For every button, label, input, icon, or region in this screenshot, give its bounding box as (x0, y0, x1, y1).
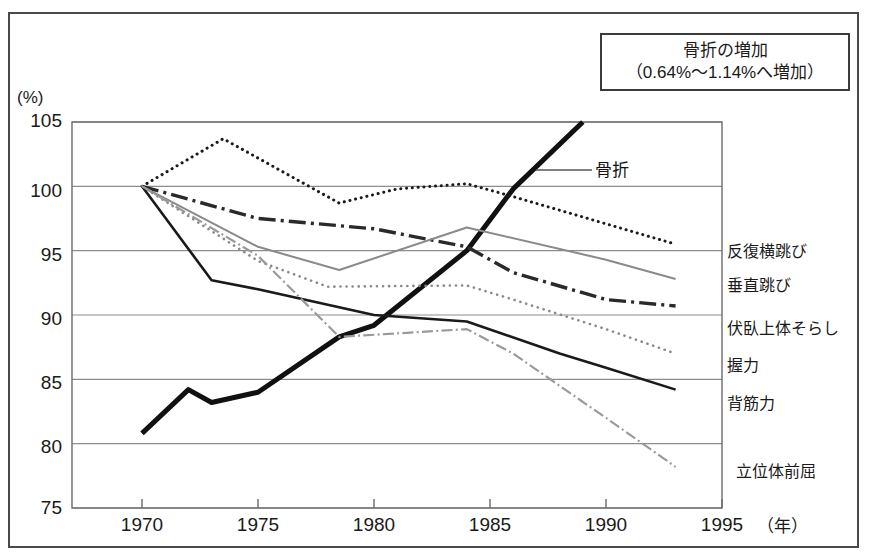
y-tick-label: 90 (16, 308, 62, 330)
series-line (142, 186, 676, 389)
series-line (142, 186, 676, 353)
x-tick-label: 1995 (682, 514, 762, 536)
series-label-suichoku-tobi: 垂直跳び (727, 272, 791, 296)
series-label-akuryoku: 握力 (727, 352, 759, 376)
series-label-hanpuku-yoko-tobi: 反復横跳び (727, 238, 807, 262)
y-tick-label: 105 (16, 110, 62, 132)
callout-line-1: 骨折の増加 (683, 40, 768, 62)
series-label-haikinryoku: 背筋力 (727, 390, 775, 414)
x-axis-unit-label: （年） (757, 512, 808, 537)
x-tick-label: 1985 (450, 514, 530, 536)
series-label-fukuga-jotai-sorashi: 伏臥上体そらし (727, 315, 839, 339)
series-label-fracture: 骨折 (595, 156, 629, 181)
x-tick-marks-group (142, 499, 722, 508)
x-tick-label: 1990 (566, 514, 646, 536)
series-label-ritsui-tai-zenkutsu: 立位体前屈 (736, 458, 816, 482)
y-axis-unit-label: (%) (17, 88, 43, 108)
x-tick-label: 1980 (334, 514, 414, 536)
y-tick-label: 95 (16, 244, 62, 266)
y-tick-label: 75 (16, 497, 62, 519)
chart-figure: 骨折の増加 （0.64%〜1.14%へ増加） (%) （年） 105 100 9… (0, 0, 869, 560)
y-tick-label: 80 (16, 436, 62, 458)
y-tick-label: 85 (16, 372, 62, 394)
callout-line-2: （0.64%〜1.14%へ増加） (626, 62, 824, 84)
y-tick-label: 100 (16, 180, 62, 202)
callout-box: 骨折の増加 （0.64%〜1.14%へ増加） (600, 33, 850, 91)
series-line (142, 186, 676, 279)
x-tick-label: 1975 (218, 514, 298, 536)
x-tick-label: 1970 (102, 514, 182, 536)
